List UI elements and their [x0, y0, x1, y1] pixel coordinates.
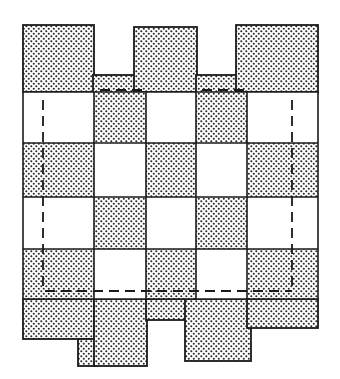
checkerboard-net-diagram — [0, 0, 340, 379]
cell-shaded-r1c0 — [23, 143, 94, 197]
col2-bottom-flap — [94, 299, 147, 366]
cell-white-r2c2 — [146, 197, 196, 249]
cell-white-r1c1 — [94, 143, 146, 197]
cell-shaded-r3c2 — [146, 249, 196, 299]
cell-shaded-r0c1 — [94, 92, 146, 143]
cell-shaded-r1c4 — [247, 143, 318, 197]
col1-bottom-flap — [23, 299, 94, 339]
cell-white-r2c0 — [23, 197, 94, 249]
cell-white-r2c4 — [247, 197, 318, 249]
cell-white-r0c4 — [247, 92, 318, 143]
cell-white-r0c0 — [23, 92, 94, 143]
col3-top-flap — [134, 27, 197, 92]
cell-shaded-r2c3 — [196, 197, 247, 249]
cell-white-r0c2 — [146, 92, 196, 143]
col4-bottom-flap — [185, 299, 251, 361]
cell-shaded-r0c3 — [196, 92, 247, 143]
cell-shaded-r2c1 — [94, 197, 146, 249]
checker-cells — [23, 92, 318, 299]
cell-shaded-r1c2 — [146, 143, 196, 197]
col5-bottom-flap — [247, 299, 318, 328]
cell-white-r1c3 — [196, 143, 247, 197]
col5-top-flap — [236, 25, 318, 92]
col1-top-flap — [23, 25, 94, 92]
